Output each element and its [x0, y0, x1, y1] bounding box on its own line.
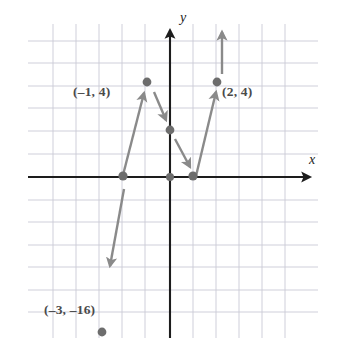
- plotted-points: [98, 78, 222, 337]
- x-axis-label: x: [309, 152, 315, 168]
- point-label-neg3-neg16: (–3, –16): [44, 302, 95, 318]
- data-point-2-4: [213, 78, 222, 87]
- data-point-neg3-neg16: [98, 328, 107, 337]
- left-rising-arrow: [122, 93, 144, 179]
- center-descending-arrow: [175, 139, 190, 167]
- point-label-2-4: (2, 4): [222, 84, 252, 100]
- transformation-arrows: [110, 32, 222, 266]
- plot-canvas: [0, 0, 341, 354]
- point-label-neg1-4: (–1, 4): [73, 84, 110, 100]
- data-point-left-root: [118, 171, 127, 180]
- data-point-origin: [166, 173, 174, 181]
- y-axis-label: y: [180, 10, 186, 26]
- right-rising-arrow: [196, 92, 216, 176]
- data-point-neg1-4: [143, 78, 152, 87]
- coordinate-plane-figure: (–1, 4) (2, 4) (–3, –16) y x: [0, 0, 341, 354]
- data-point-right-root: [188, 171, 197, 180]
- data-point-y-intercept: [166, 126, 175, 135]
- left-descending-arrow: [154, 92, 166, 120]
